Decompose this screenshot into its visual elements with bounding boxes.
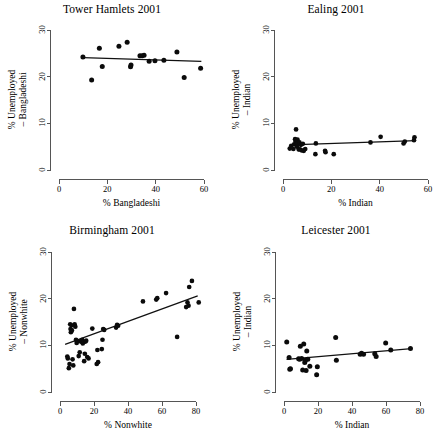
y-tick-label-leicester-10: 10 — [262, 334, 271, 356]
data-point — [82, 359, 87, 364]
data-point — [147, 59, 152, 64]
data-point — [196, 300, 201, 305]
y-axis-label-ealing-line1: % Unemployed — [231, 40, 242, 160]
y-tick-label-leicester-30: 30 — [262, 241, 271, 263]
y-tick-label-ealing-30: 30 — [261, 19, 270, 41]
data-point — [331, 152, 336, 157]
x-axis-label-leicester: % Indian — [254, 420, 448, 431]
x-tick-label-birmingham-0: 0 — [45, 407, 75, 416]
y-tick-label-birmingham-20: 20 — [38, 287, 47, 309]
panel-birmingham: Birmingham 20010204060800102030% Nonwhit… — [0, 221, 224, 442]
data-point — [198, 66, 203, 71]
data-point — [383, 341, 388, 346]
data-point — [334, 358, 339, 363]
data-point — [89, 77, 94, 82]
data-points-birmingham — [65, 279, 201, 371]
data-point — [66, 366, 71, 371]
data-point — [161, 58, 166, 63]
data-point — [374, 354, 379, 359]
data-point — [96, 360, 101, 365]
data-point — [284, 340, 289, 345]
x-tick-label-birmingham-80: 80 — [181, 407, 211, 416]
y-axis-label-birmingham-line2: – Nonwhite — [19, 262, 30, 382]
data-point — [116, 323, 121, 328]
data-point — [174, 49, 179, 54]
data-point — [102, 328, 107, 333]
y-tick-label-birmingham-0: 0 — [38, 381, 47, 403]
data-point — [164, 291, 169, 296]
data-point — [142, 53, 147, 58]
data-point — [190, 279, 195, 284]
data-point — [307, 364, 312, 369]
y-tick-label-ealing-0: 0 — [261, 159, 270, 181]
scatterplot-matrix-figure: Tower Hamlets 200102040600102030% Bangla… — [0, 0, 448, 442]
data-point — [304, 348, 309, 353]
data-point — [378, 135, 383, 140]
y-axis-label-ealing-line2: – Indian — [242, 40, 253, 160]
x-tick-label-leicester-40: 40 — [337, 407, 367, 416]
data-point — [100, 337, 105, 342]
y-tick-label-birmingham-30: 30 — [38, 241, 47, 263]
data-point — [155, 296, 160, 301]
data-point — [361, 352, 366, 357]
y-tick-label-birmingham-10: 10 — [38, 334, 47, 356]
y-tick-label-ealing-20: 20 — [261, 65, 270, 87]
data-point — [99, 347, 104, 352]
x-tick-label-tower_hamlets-0: 0 — [44, 185, 74, 194]
x-axis-label-tower_hamlets: % Bangladeshi — [29, 198, 234, 209]
x-tick-label-leicester-0: 0 — [269, 407, 299, 416]
x-axis-label-ealing: % Indian — [253, 198, 448, 209]
data-point — [402, 139, 407, 144]
data-point — [288, 366, 293, 371]
x-tick-label-birmingham-20: 20 — [79, 407, 109, 416]
y-axis-label-birmingham-line1: % Unemployed — [8, 262, 19, 382]
panel-leicester: Leicester 20010204060800102030% Indian% … — [224, 221, 448, 442]
data-point — [97, 46, 102, 51]
data-point — [70, 328, 75, 333]
data-point — [175, 335, 180, 340]
y-axis-label-tower_hamlets-line1: % Unemployed — [7, 40, 18, 160]
data-point — [186, 303, 191, 308]
data-point — [129, 63, 134, 68]
data-point — [305, 357, 310, 362]
y-tick-label-tower_hamlets-0: 0 — [37, 159, 46, 181]
data-point — [80, 55, 85, 60]
data-point — [77, 350, 82, 355]
data-point — [323, 150, 328, 155]
y-tick-label-ealing-10: 10 — [261, 112, 270, 134]
x-tick-label-ealing-40: 40 — [365, 185, 395, 194]
panel-tower_hamlets: Tower Hamlets 200102040600102030% Bangla… — [0, 0, 224, 221]
y-tick-label-leicester-0: 0 — [262, 381, 271, 403]
data-point — [90, 326, 95, 331]
data-point — [73, 324, 78, 329]
data-point — [333, 335, 338, 340]
data-point — [314, 372, 319, 377]
data-point — [408, 346, 413, 351]
x-tick-label-ealing-20: 20 — [316, 185, 346, 194]
data-point — [187, 285, 192, 290]
x-tick-label-ealing-0: 0 — [268, 185, 298, 194]
y-axis-label-tower_hamlets-line2: – Bangladeshi — [18, 40, 29, 160]
y-tick-label-tower_hamlets-20: 20 — [37, 65, 46, 87]
data-point — [301, 341, 306, 346]
data-point — [116, 44, 121, 49]
y-tick-label-tower_hamlets-30: 30 — [37, 19, 46, 41]
data-point — [303, 147, 308, 152]
data-point — [72, 307, 77, 312]
data-point — [294, 127, 299, 132]
data-point — [95, 348, 100, 353]
x-axis-label-birmingham: % Nonwhite — [30, 420, 226, 431]
regression-line-ealing — [290, 141, 416, 145]
data-point — [71, 363, 76, 368]
panel-ealing: Ealing 200102040600102030% Indian% Unemp… — [224, 0, 448, 221]
data-point — [368, 140, 373, 145]
y-tick-label-leicester-20: 20 — [262, 287, 271, 309]
data-point — [152, 58, 157, 63]
data-point — [125, 40, 130, 45]
data-point — [388, 348, 393, 353]
data-point — [412, 135, 417, 140]
data-point — [300, 142, 305, 147]
data-point — [65, 356, 70, 361]
y-axis-label-leicester-line1: % Unemployed — [232, 262, 243, 382]
x-tick-label-ealing-60: 60 — [413, 185, 443, 194]
